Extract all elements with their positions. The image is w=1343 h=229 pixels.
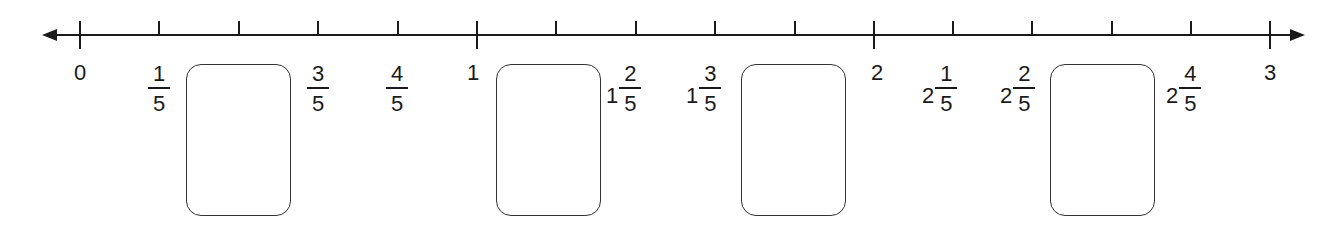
numerator: 1 [153,62,165,86]
whole-part: 2 [922,83,934,109]
answer-box-2-5[interactable] [186,64,291,216]
fraction: 1 5 [148,62,170,116]
label-2-1-5: 2 1 5 [922,62,957,116]
fraction-bar [699,87,721,89]
fraction-bar [1013,87,1035,89]
numerator: 3 [704,62,716,86]
answer-box-1-4-5[interactable] [741,64,846,216]
fraction: 2 5 [619,62,641,116]
denominator: 5 [1018,92,1030,116]
numerator: 2 [1018,62,1030,86]
answer-box-2-3-5[interactable] [1050,64,1155,216]
fraction-bar [148,87,170,89]
label-1-2-5: 1 2 5 [606,62,641,116]
right-arrow-icon [1290,29,1305,41]
fraction: 3 5 [307,62,329,116]
fifth-ticks [159,21,1191,35]
label-3: 3 [1264,62,1276,84]
answer-box-1-1-5[interactable] [496,64,601,216]
denominator: 5 [1184,92,1196,116]
label-3-5: 3 5 [307,62,329,116]
fraction: 2 5 [1013,62,1035,116]
left-arrow-icon [42,29,57,41]
label-1: 1 [467,62,479,84]
number-line-diagram: 0 1 2 3 1 5 3 5 4 5 1 2 5 [0,0,1343,229]
fraction-bar [619,87,641,89]
denominator: 5 [704,92,716,116]
whole-part: 1 [686,83,698,109]
fraction: 4 5 [386,62,408,116]
denominator: 5 [153,92,165,116]
numerator: 1 [940,62,952,86]
fraction: 4 5 [1179,62,1201,116]
denominator: 5 [940,92,952,116]
fraction: 1 5 [935,62,957,116]
whole-part: 1 [606,83,618,109]
numerator: 2 [624,62,636,86]
fraction-bar [386,87,408,89]
denominator: 5 [391,92,403,116]
label-0: 0 [74,62,86,84]
denominator: 5 [312,92,324,116]
label-2-4-5: 2 4 5 [1166,62,1201,116]
numerator: 4 [391,62,403,86]
numerator: 4 [1184,62,1196,86]
numerator: 3 [312,62,324,86]
label-4-5: 4 5 [386,62,408,116]
fraction-bar [307,87,329,89]
label-2: 2 [871,62,883,84]
denominator: 5 [624,92,636,116]
label-1-3-5: 1 3 5 [686,62,721,116]
whole-part: 2 [1000,83,1012,109]
whole-part: 2 [1166,83,1178,109]
fraction-bar [935,87,957,89]
fraction-bar [1179,87,1201,89]
label-1-5: 1 5 [148,62,170,116]
label-2-2-5: 2 2 5 [1000,62,1035,116]
fraction: 3 5 [699,62,721,116]
